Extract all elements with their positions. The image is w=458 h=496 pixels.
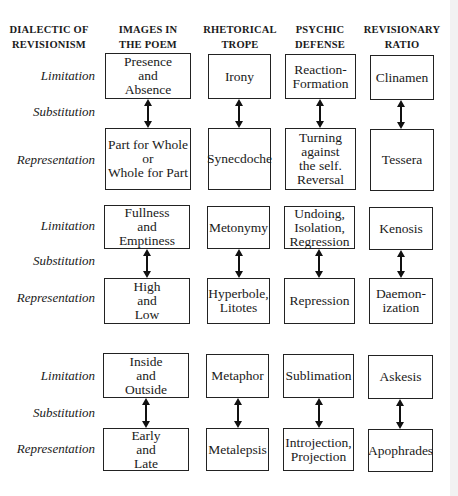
label-representation-2: Representation bbox=[0, 290, 95, 306]
double-arrow-icon bbox=[395, 399, 405, 429]
double-arrow-icon bbox=[234, 99, 244, 128]
double-arrow-icon bbox=[233, 398, 243, 428]
box-trope-metonymy: Metonymy bbox=[207, 206, 270, 249]
double-arrow-icon bbox=[234, 249, 244, 278]
box-image-part-for-whole: Part for Whole or Whole for Part bbox=[105, 128, 191, 190]
double-arrow-icon bbox=[142, 249, 152, 278]
box-trope-metalepsis: Metalepsis bbox=[206, 428, 269, 471]
label-substitution-1: Substitution bbox=[0, 104, 95, 120]
label-representation-1: Representation bbox=[0, 152, 95, 168]
box-ratio-tessera: Tessera bbox=[370, 129, 434, 191]
box-image-inside-outside: Inside and Outside bbox=[103, 353, 189, 398]
box-ratio-daemonization: Daemon- ization bbox=[369, 278, 433, 324]
header-revisionary-ratio: REVISIONARY RATIO bbox=[362, 22, 442, 52]
box-trope-synecdoche: Synecdoche bbox=[208, 128, 271, 190]
double-arrow-icon bbox=[314, 398, 324, 428]
header-psychic-defense: PSYCHIC DEFENSE bbox=[282, 22, 358, 52]
box-ratio-askesis: Askesis bbox=[368, 355, 433, 399]
box-ratio-apophrades: Apophrades bbox=[368, 429, 433, 472]
box-ratio-kenosis: Kenosis bbox=[369, 207, 433, 250]
double-arrow-icon bbox=[396, 100, 406, 129]
double-arrow-icon bbox=[314, 249, 324, 278]
double-arrow-icon bbox=[143, 99, 153, 128]
box-ratio-clinamen: Clinamen bbox=[370, 55, 434, 100]
box-trope-hyperbole-litotes: Hyperbole, Litotes bbox=[207, 278, 270, 324]
header-rhetorical-trope: RHETORICAL TROPE bbox=[200, 22, 280, 52]
label-substitution-2: Substitution bbox=[0, 253, 95, 269]
box-image-fullness-emptiness: Fullness and Emptiness bbox=[104, 205, 190, 249]
header-dialectic-of-revisionism: DIALECTIC OF REVISIONISM bbox=[2, 22, 96, 52]
header-images-in-the-poem: IMAGES IN THE POEM bbox=[105, 22, 191, 52]
label-limitation-2: Limitation bbox=[0, 218, 95, 234]
label-limitation-3: Limitation bbox=[0, 368, 95, 384]
double-arrow-icon bbox=[396, 250, 406, 278]
box-defense-reaction-formation: Reaction- Formation bbox=[285, 54, 356, 99]
box-defense-introjection-projection: Introjection, Projection bbox=[283, 428, 354, 471]
box-defense-undoing-isolation-regression: Undoing, Isolation, Regression bbox=[284, 206, 355, 249]
box-image-early-late: Early and Late bbox=[103, 428, 189, 471]
box-trope-metaphor: Metaphor bbox=[206, 354, 269, 398]
box-image-high-low: High and Low bbox=[104, 278, 190, 324]
double-arrow-icon bbox=[315, 99, 325, 128]
box-defense-repression: Repression bbox=[284, 278, 355, 324]
label-limitation-1: Limitation bbox=[0, 68, 95, 84]
page-edge-shadow bbox=[450, 0, 458, 496]
box-trope-irony: Irony bbox=[208, 54, 271, 99]
label-substitution-3: Substitution bbox=[0, 405, 95, 421]
box-image-presence-absence: Presence and Absence bbox=[105, 53, 191, 99]
label-representation-3: Representation bbox=[0, 441, 95, 457]
box-defense-turning-against-self: Turning against the self. Reversal bbox=[285, 128, 356, 190]
double-arrow-icon bbox=[141, 398, 151, 428]
box-defense-sublimation: Sublimation bbox=[283, 354, 354, 398]
